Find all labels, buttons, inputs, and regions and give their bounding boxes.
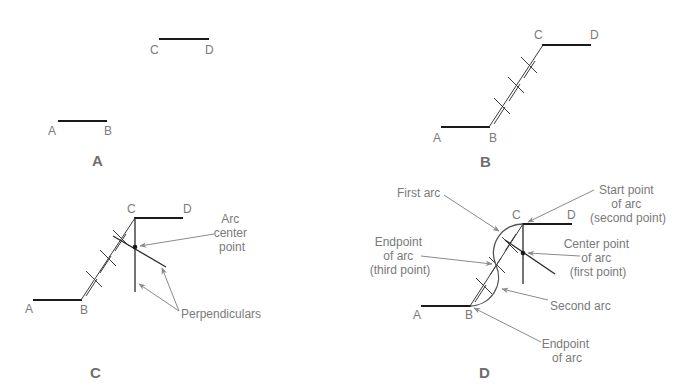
point-label-d: D bbox=[205, 43, 214, 57]
point-label-a: A bbox=[413, 308, 421, 322]
point-label-c: C bbox=[534, 28, 543, 42]
panel-c: A B C D Arc center point Perpendiculars … bbox=[25, 202, 261, 381]
point-label-a: A bbox=[48, 124, 56, 138]
leader-arc-center bbox=[140, 234, 214, 246]
arc-center-point bbox=[133, 245, 138, 250]
leader-start-point bbox=[528, 190, 594, 222]
callout-perpendiculars: Perpendiculars bbox=[181, 307, 261, 321]
panel-b: A B C D B bbox=[433, 28, 599, 170]
point-label-c: C bbox=[127, 202, 136, 216]
callout-first-arc: First arc bbox=[397, 186, 440, 200]
callout-endpoint-arc: Endpoint of arc bbox=[542, 337, 593, 365]
division-marks bbox=[86, 230, 129, 296]
leader-first-arc bbox=[444, 195, 499, 231]
point-label-b: B bbox=[80, 303, 88, 317]
leader-center-point bbox=[528, 253, 580, 256]
perpendicular-bisector bbox=[113, 236, 166, 267]
leader-perpendicular-vertical bbox=[139, 284, 179, 311]
panel-d: A B C D First arc Start point of arc (se… bbox=[370, 183, 666, 381]
perpendicular-bisector bbox=[505, 240, 555, 274]
callout-second-arc: Second arc bbox=[550, 299, 611, 313]
point-label-c: C bbox=[512, 208, 521, 222]
point-label-d: D bbox=[590, 28, 599, 42]
panel-caption-c: C bbox=[90, 364, 101, 381]
point-label-b: B bbox=[104, 124, 112, 138]
line-bc bbox=[489, 45, 543, 127]
center-point-of-arc bbox=[521, 251, 526, 256]
point-label-d: D bbox=[567, 208, 576, 222]
panel-a: A B C D A bbox=[48, 39, 214, 169]
point-label-a: A bbox=[433, 131, 441, 145]
point-label-b: B bbox=[465, 308, 473, 322]
point-label-c: C bbox=[150, 43, 159, 57]
point-label-d: D bbox=[183, 202, 192, 216]
panel-caption-a: A bbox=[92, 152, 103, 169]
leader-second-arc bbox=[502, 289, 548, 300]
ogee-curve-construction-diagram: A B C D A A B C D B bbox=[0, 0, 694, 388]
leader-endpoint-third bbox=[421, 256, 492, 264]
callout-start-point: Start point of arc (second point) bbox=[590, 183, 666, 225]
callout-arc-center: Arc center point bbox=[214, 212, 251, 254]
panel-caption-d: D bbox=[479, 364, 490, 381]
leader-endpoint-arc bbox=[474, 308, 541, 342]
division-marks bbox=[494, 57, 537, 124]
callout-center-point: Center point of arc (first point) bbox=[564, 237, 633, 279]
point-label-a: A bbox=[25, 302, 33, 316]
leader-perpendicular-bisector bbox=[162, 268, 179, 311]
line-bc bbox=[81, 218, 135, 300]
panel-caption-b: B bbox=[480, 153, 491, 170]
point-label-b: B bbox=[489, 131, 497, 145]
